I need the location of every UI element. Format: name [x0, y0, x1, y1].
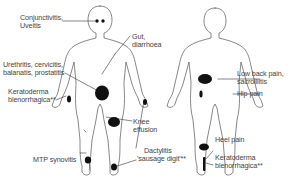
label-urethritis: Urethritis, cervicitis, balanatis, prost… — [3, 61, 64, 78]
label-mtp-synovitis: MTP synovitis — [33, 156, 76, 164]
label-low-back-pain: Low back pain, sacroiliitis — [237, 70, 284, 87]
label-hip-pain: Hip pain — [237, 90, 263, 98]
label-keratoderma-hand: Keratoderma blenorrhagica** — [8, 88, 56, 105]
label-gut: Gut, diarrhoea — [132, 33, 161, 50]
label-conjunctivitis: Conjunctivitis, Uveitis — [20, 14, 62, 31]
label-dactylitis: Dactylitis 'sausage digit'** — [137, 147, 186, 164]
label-keratoderma-foot: Keratoderma blenorrhagica** — [215, 154, 263, 171]
label-heel-pain: Heel pain — [215, 136, 244, 144]
label-knee-effusion: Knee effusion — [133, 118, 157, 135]
